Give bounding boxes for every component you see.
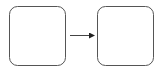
source-box: [10, 7, 66, 66]
flow-diagram: [0, 0, 155, 74]
target-box: [98, 7, 154, 66]
